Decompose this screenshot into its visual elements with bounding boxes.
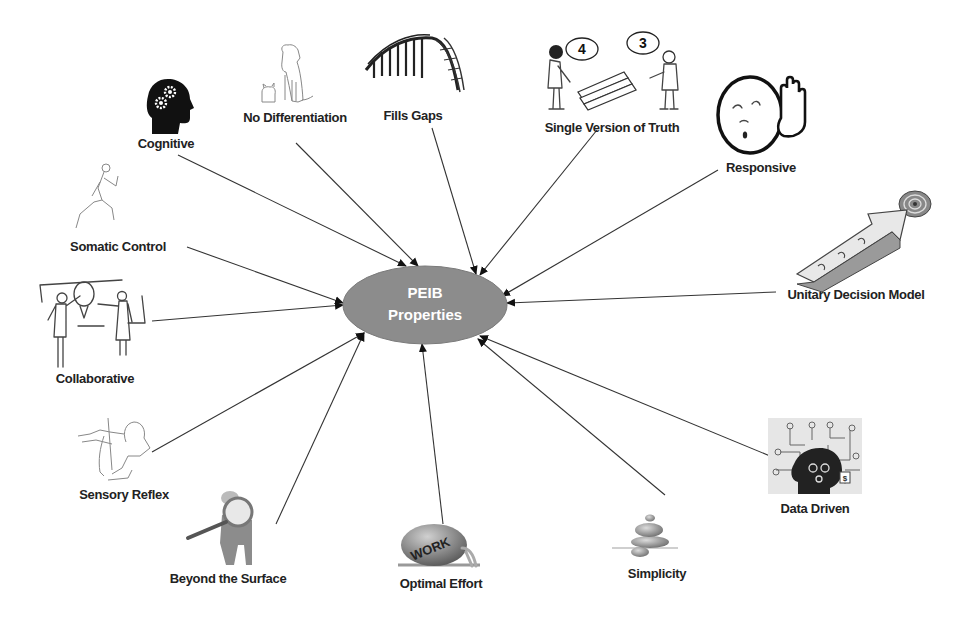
puzzle-arrow-target-icon [797, 191, 931, 292]
edge-optimal-effort [422, 344, 443, 524]
peib-properties-diagram: PEIB Properties Cognitive No Differentia… [0, 0, 963, 619]
reflex-arm-icon [78, 418, 150, 480]
hub-title-line1: PEIB [407, 284, 442, 301]
bridge-icon [366, 35, 464, 92]
edge-simplicity [478, 339, 665, 495]
node-label-single-version-of-truth: Single Version of Truth [545, 120, 680, 135]
stacked-stones-icon [612, 515, 678, 558]
hub-title-line2: Properties [388, 306, 462, 323]
node-label-somatic-control: Somatic Control [70, 239, 166, 254]
edge-unitary-decision-model [507, 292, 776, 303]
node-label-simplicity: Simplicity [628, 566, 687, 581]
edge-responsive [502, 170, 718, 296]
data-head-icon: $ [768, 418, 862, 494]
edge-sensory-reflex [152, 333, 364, 452]
bubble-value-right: 3 [639, 35, 647, 51]
node-collaborative: Collaborative [40, 280, 145, 386]
node-label-unitary-decision-model: Unitary Decision Model [787, 287, 924, 302]
edge-data-driven [480, 336, 770, 456]
node-cognitive: Cognitive [138, 79, 195, 151]
bubble-value-left: 4 [578, 41, 586, 57]
node-fills-gaps: Fills Gaps [366, 35, 464, 123]
hub-node: PEIB Properties [343, 266, 507, 344]
node-label-responsive: Responsive [726, 160, 796, 175]
running-man-icon [76, 164, 118, 228]
two-people-disagreeing-icon: 4 3 [548, 32, 678, 110]
node-label-optimal-effort: Optimal Effort [400, 576, 483, 591]
pushing-work-boulder-icon: WORK [398, 524, 480, 566]
node-label-no-differentiation: No Differentiation [243, 110, 347, 125]
edge-collaborative [152, 305, 343, 321]
node-sensory-reflex: Sensory Reflex [78, 418, 170, 502]
edge-cognitive [178, 155, 406, 266]
node-no-differentiation: No Differentiation [243, 45, 347, 125]
edge-somatic-control [187, 247, 343, 303]
edge-beyond-the-surface [276, 333, 364, 524]
head-with-gears-icon [147, 79, 194, 134]
edge-no-differentiation [296, 143, 418, 266]
svg-text:$: $ [843, 474, 848, 483]
node-somatic-control: Somatic Control [70, 164, 166, 254]
node-beyond-the-surface: Beyond the Surface [170, 491, 287, 586]
node-label-fills-gaps: Fills Gaps [383, 108, 442, 123]
node-data-driven: $ Data Driven [768, 418, 862, 516]
node-simplicity: Simplicity [612, 515, 687, 582]
edge-fills-gaps [432, 128, 476, 274]
hub-ellipse [343, 266, 507, 344]
node-optimal-effort: WORK Optimal Effort [398, 524, 483, 591]
node-label-data-driven: Data Driven [781, 501, 850, 516]
face-with-raised-hand-icon [718, 77, 805, 153]
node-label-cognitive: Cognitive [138, 136, 195, 151]
people-at-whiteboard-icon [40, 280, 145, 367]
dog-and-cat-icon [262, 45, 313, 102]
node-responsive: Responsive [718, 77, 805, 175]
node-label-beyond-the-surface: Beyond the Surface [170, 571, 287, 586]
magnifying-glass-figure-icon [188, 491, 252, 565]
node-label-collaborative: Collaborative [56, 371, 135, 386]
node-unitary-decision-model: Unitary Decision Model [787, 191, 931, 302]
node-single-version-of-truth: 4 3 Single Version of Truth [545, 32, 680, 135]
edge-single-version-of-truth [480, 130, 597, 275]
node-label-sensory-reflex: Sensory Reflex [79, 487, 170, 502]
